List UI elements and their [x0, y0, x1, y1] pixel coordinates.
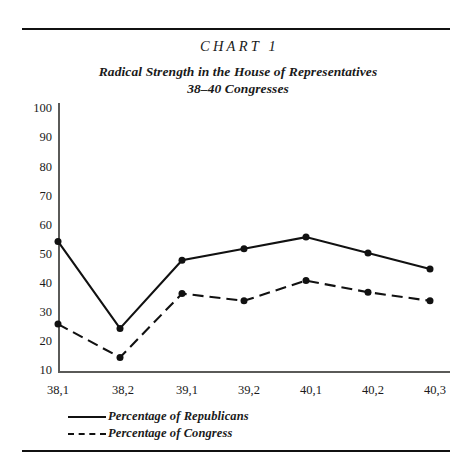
x-tick-label: 39,1	[164, 384, 210, 396]
data-point-marker	[55, 238, 62, 245]
solid-line-swatch	[68, 412, 106, 422]
x-tick-label: 38,2	[100, 384, 146, 396]
y-tick-label: 100	[18, 102, 52, 114]
legend-item-republicans: Percentage of Republicans	[68, 408, 368, 425]
data-point-marker	[241, 297, 248, 304]
data-point-marker	[241, 245, 248, 252]
x-tick-label: 40,3	[412, 384, 458, 396]
data-point-marker	[427, 297, 434, 304]
legend-label: Percentage of Congress	[108, 426, 232, 441]
y-tick-label: 60	[18, 219, 52, 231]
bottom-divider-rule	[22, 450, 450, 452]
legend-item-congress: Percentage of Congress	[68, 425, 368, 442]
legend: Percentage of Republicans Percentage of …	[68, 408, 368, 442]
y-tick-label: 90	[18, 131, 52, 143]
y-tick-label: 80	[18, 161, 52, 173]
y-tick-label: 50	[18, 248, 52, 260]
y-tick-label: 40	[18, 277, 52, 289]
x-tick-label: 39,2	[226, 384, 272, 396]
dashed-line-swatch	[68, 429, 106, 439]
x-tick-label: 40,1	[288, 384, 334, 396]
y-tick-label: 10	[18, 364, 52, 376]
y-tick-label: 70	[18, 190, 52, 202]
data-series-layer	[58, 103, 450, 371]
data-point-marker	[117, 354, 124, 361]
data-point-marker	[427, 265, 434, 272]
chart-figure: CHART 1 Radical Strength in the House of…	[0, 0, 476, 467]
x-tick-label: 38,1	[35, 384, 81, 396]
legend-label: Percentage of Republicans	[108, 409, 249, 424]
plot-area	[58, 103, 450, 371]
data-point-marker	[117, 325, 124, 332]
x-tick-label: 40,2	[350, 384, 396, 396]
data-point-marker	[365, 250, 372, 257]
data-point-marker	[179, 290, 186, 297]
data-point-marker	[303, 277, 310, 284]
y-tick-label: 30	[18, 306, 52, 318]
data-point-marker	[303, 234, 310, 241]
y-tick-label: 20	[18, 335, 52, 347]
x-axis-line	[58, 371, 450, 373]
data-point-marker	[55, 321, 62, 328]
data-point-marker	[179, 257, 186, 264]
data-point-marker	[365, 289, 372, 296]
